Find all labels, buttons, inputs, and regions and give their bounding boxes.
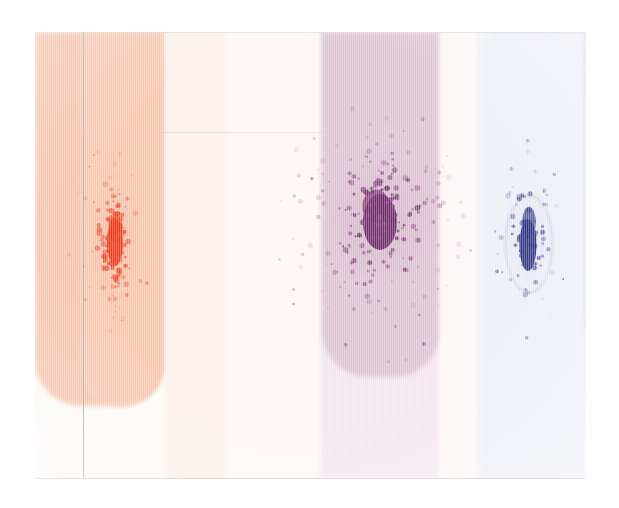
lane-band-lane-1-salmon-r [79, 32, 165, 406]
plate-top-edge-line [35, 32, 586, 33]
lane-band-lane-3-halo [478, 32, 586, 479]
lane-band-gap-2-offwhite [227, 32, 320, 479]
plate-bottom-edge-line [35, 478, 586, 479]
scan-canvas [0, 0, 619, 508]
lane-band-gap-1-cream [165, 32, 227, 479]
faint-cross-rule-line [83, 132, 373, 133]
lane-band-lane-2-purple [322, 32, 440, 377]
scanned-plate [35, 32, 586, 479]
pencil-rule-line [83, 32, 84, 479]
